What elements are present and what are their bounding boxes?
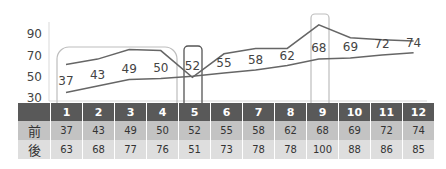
- header-cell: 5: [179, 103, 211, 121]
- table-cell: 85: [403, 140, 435, 159]
- data-table: 1 2 3 4 5 6 7 8 9 10 11 12 前 37 43 49 50…: [18, 103, 435, 159]
- table-cell: 78: [243, 140, 275, 159]
- table-cell: 86: [371, 140, 403, 159]
- table-cell: 63: [51, 140, 83, 159]
- table-cell: 73: [211, 140, 243, 159]
- header-cell: 3: [115, 103, 147, 121]
- header-cell: 7: [243, 103, 275, 121]
- header-cell: 4: [147, 103, 179, 121]
- table-cell: 74: [403, 121, 435, 140]
- table-cell: 100: [307, 140, 339, 159]
- table-cell: 72: [371, 121, 403, 140]
- table-cell: 68: [307, 121, 339, 140]
- table-cell: 88: [339, 140, 371, 159]
- header-cell: 8: [275, 103, 307, 121]
- data-label: 72: [374, 37, 389, 51]
- table-header-row: 1 2 3 4 5 6 7 8 9 10 11 12: [18, 103, 435, 121]
- table-cell: 69: [339, 121, 371, 140]
- row-label-before: 前: [18, 121, 51, 140]
- data-label: 49: [122, 62, 137, 76]
- table-cell: 55: [211, 121, 243, 140]
- table-row-before: 前 37 43 49 50 52 55 58 62 68 69 72 74: [18, 121, 435, 140]
- table-cell: 78: [275, 140, 307, 159]
- table-cell: 62: [275, 121, 307, 140]
- table-cell: 58: [243, 121, 275, 140]
- table-cell: 37: [51, 121, 83, 140]
- data-label: 37: [58, 74, 73, 88]
- table-cell: 51: [179, 140, 211, 159]
- data-label: 50: [153, 61, 168, 75]
- header-cell: 10: [339, 103, 371, 121]
- data-label: 55: [216, 56, 231, 70]
- table-cell: 52: [179, 121, 211, 140]
- table-cell: 68: [83, 140, 115, 159]
- header-cell: 2: [83, 103, 115, 121]
- header-cell: 12: [403, 103, 435, 121]
- header-cell: 1: [51, 103, 83, 121]
- series-after-line: [66, 25, 414, 78]
- table-cell: 43: [83, 121, 115, 140]
- data-label: 68: [311, 41, 326, 55]
- header-cell: 11: [371, 103, 403, 121]
- header-cell: 6: [211, 103, 243, 121]
- header-cell: 9: [307, 103, 339, 121]
- table-cell: 50: [147, 121, 179, 140]
- table-cell: 77: [115, 140, 147, 159]
- table-row-after: 後 63 68 77 76 51 73 78 78 100 88 86 85: [18, 140, 435, 159]
- data-label: 43: [90, 68, 105, 82]
- data-label: 62: [280, 49, 295, 63]
- data-label: 74: [406, 36, 421, 50]
- row-label-after: 後: [18, 140, 51, 159]
- data-label: 58: [248, 53, 263, 67]
- data-label: 52: [185, 59, 200, 73]
- data-label: 69: [343, 40, 358, 54]
- series-before-line: [66, 53, 414, 93]
- table-cell: 49: [115, 121, 147, 140]
- table-cell: 76: [147, 140, 179, 159]
- header-corner: [18, 103, 51, 121]
